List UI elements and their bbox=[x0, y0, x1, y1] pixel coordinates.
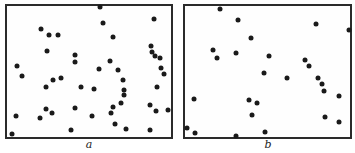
dot-a bbox=[73, 106, 78, 111]
dot-b bbox=[250, 113, 255, 118]
panel-a-frame bbox=[5, 4, 173, 139]
dot-b bbox=[307, 64, 312, 69]
dot-a bbox=[166, 108, 171, 113]
dot-a bbox=[159, 66, 164, 71]
dot-b bbox=[347, 28, 352, 33]
dot-b bbox=[234, 134, 239, 139]
dot-a bbox=[44, 85, 49, 90]
dot-a bbox=[152, 17, 157, 22]
dot-b bbox=[236, 18, 241, 23]
dot-b bbox=[262, 71, 267, 76]
dot-b bbox=[192, 97, 197, 102]
dot-a bbox=[10, 132, 15, 137]
dot-b bbox=[316, 76, 321, 81]
dot-b bbox=[322, 89, 327, 94]
dot-b bbox=[211, 48, 216, 53]
dot-b bbox=[285, 76, 290, 81]
dot-a bbox=[155, 85, 160, 90]
dot-a bbox=[45, 49, 50, 54]
panel-b-label: b bbox=[264, 138, 271, 151]
dot-b bbox=[249, 36, 254, 41]
dot-a bbox=[38, 116, 43, 121]
dot-a bbox=[92, 87, 97, 92]
dot-a bbox=[116, 68, 121, 73]
panel-a-label: a bbox=[86, 138, 93, 151]
dot-a bbox=[59, 76, 64, 81]
dot-b bbox=[263, 130, 268, 135]
dot-a bbox=[98, 5, 103, 10]
dot-b bbox=[234, 51, 239, 56]
dot-a bbox=[109, 111, 114, 116]
dot-a bbox=[69, 128, 74, 133]
dot-a bbox=[51, 78, 56, 83]
dot-a bbox=[148, 128, 153, 133]
dot-b bbox=[218, 7, 223, 12]
dot-a bbox=[111, 35, 116, 40]
dot-a bbox=[119, 101, 124, 106]
dot-a bbox=[124, 127, 129, 132]
dot-a bbox=[121, 78, 126, 83]
dot-b bbox=[337, 120, 342, 125]
dot-a bbox=[158, 56, 163, 61]
dot-a bbox=[50, 111, 55, 116]
dot-a bbox=[73, 60, 78, 65]
dot-a bbox=[149, 44, 154, 49]
dot-a bbox=[47, 33, 52, 38]
dot-a bbox=[14, 114, 19, 119]
dot-b bbox=[323, 115, 328, 120]
dot-a bbox=[90, 114, 95, 119]
dot-b bbox=[337, 94, 342, 99]
dot-a bbox=[108, 59, 113, 64]
dot-a bbox=[101, 21, 106, 26]
dot-a bbox=[111, 105, 116, 110]
dot-a bbox=[79, 85, 84, 90]
dot-a bbox=[56, 33, 61, 38]
dot-a bbox=[15, 64, 20, 69]
dot-a bbox=[148, 103, 153, 108]
dot-a bbox=[20, 74, 25, 79]
dot-b bbox=[303, 58, 308, 63]
dot-a bbox=[154, 109, 159, 114]
dot-b bbox=[267, 54, 272, 59]
dot-a bbox=[39, 27, 44, 32]
dot-b bbox=[185, 126, 190, 131]
dot-b bbox=[314, 22, 319, 27]
dot-a bbox=[73, 53, 78, 58]
dot-b bbox=[247, 98, 252, 103]
dot-b bbox=[320, 82, 325, 87]
dot-b bbox=[215, 56, 220, 61]
dot-b bbox=[255, 101, 260, 106]
dot-a bbox=[97, 67, 102, 72]
dot-a bbox=[113, 122, 118, 127]
dot-b bbox=[193, 131, 198, 136]
dot-a bbox=[162, 72, 167, 77]
dot-a bbox=[122, 93, 127, 98]
dot-a bbox=[44, 107, 49, 112]
